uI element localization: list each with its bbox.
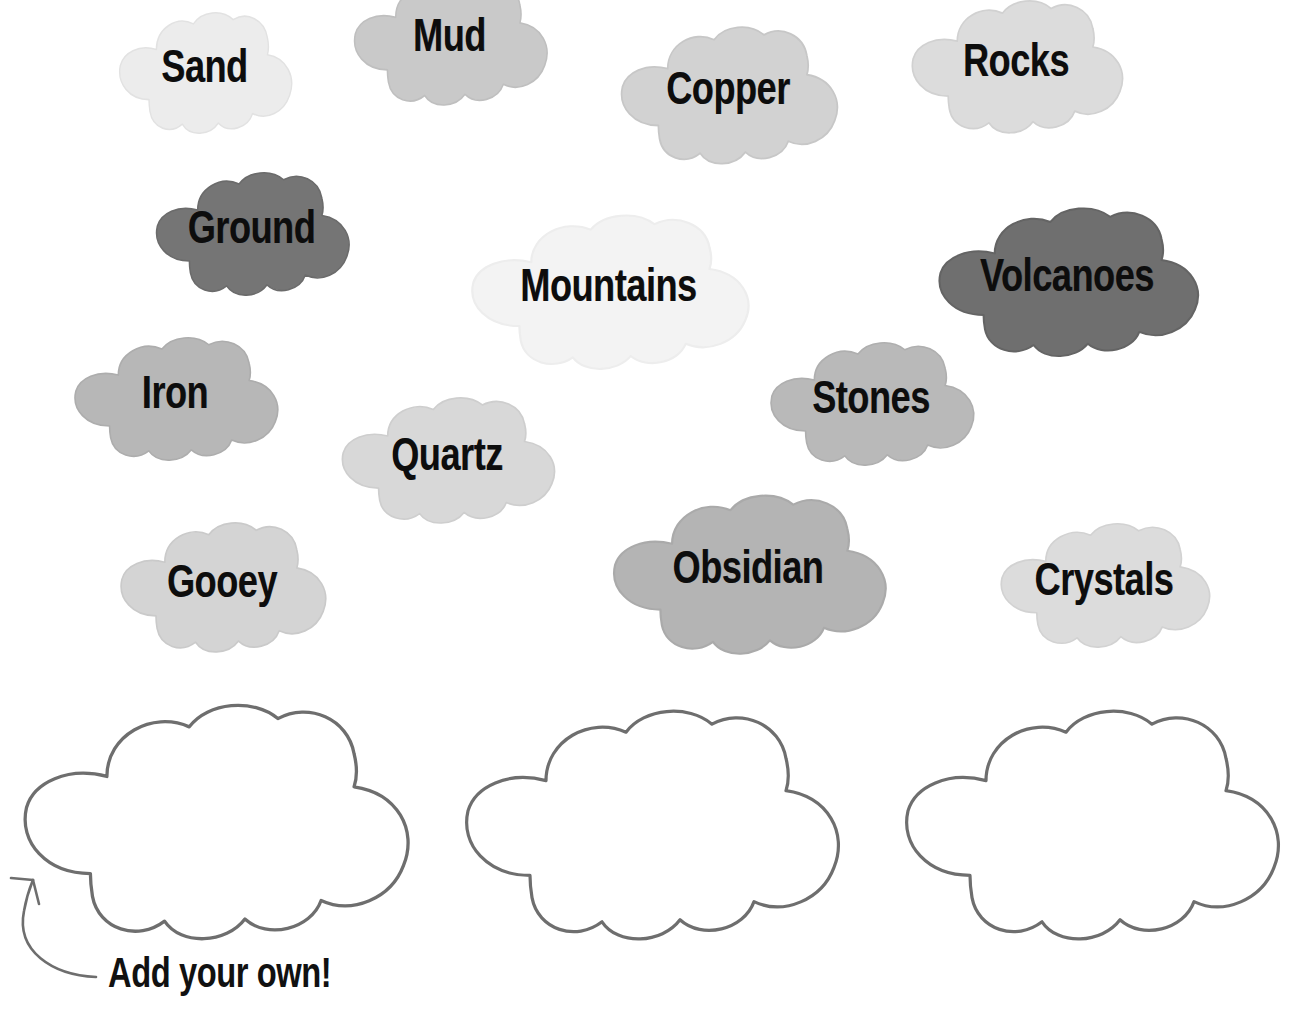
word-cloud-mud[interactable]: Mud — [346, 0, 553, 110]
word-cloud-obsidian[interactable]: Obsidian — [602, 492, 894, 660]
word-cloud-ground[interactable]: Ground — [148, 170, 355, 300]
word-cloud-mountains[interactable]: Mountains — [460, 212, 757, 375]
word-cloud-stones[interactable]: Stones — [762, 340, 980, 470]
word-cloud-rocks[interactable]: Rocks — [903, 0, 1129, 138]
worksheet-canvas: SandMudCopperRocksGroundMountainsVolcano… — [0, 0, 1296, 1031]
word-cloud-quartz[interactable]: Quartz — [333, 395, 561, 528]
word-cloud-copper[interactable]: Copper — [612, 24, 844, 169]
add-your-own-label: Add your own! — [108, 950, 331, 997]
word-cloud-crystals[interactable]: Crystals — [992, 521, 1216, 652]
word-cloud-iron[interactable]: Iron — [66, 335, 284, 465]
blank-cloud-blank-2[interactable] — [450, 706, 850, 948]
word-cloud-gooey[interactable]: Gooey — [112, 520, 332, 657]
blank-cloud-blank-3[interactable] — [890, 706, 1290, 948]
word-cloud-volcanoes[interactable]: Volcanoes — [928, 205, 1206, 362]
word-cloud-sand[interactable]: Sand — [112, 10, 297, 138]
